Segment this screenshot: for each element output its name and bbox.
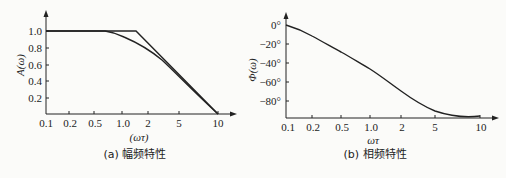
x-tick: 10: [213, 117, 225, 129]
x-tick: 5: [432, 121, 438, 133]
x-tick: 0.2: [63, 117, 77, 129]
amplitude-curve: [46, 31, 218, 114]
amplitude-chart: 1.0 0.8 0.6 0.4 0.2 0.1 0.2 0.5 1.0 2 5 …: [14, 10, 237, 161]
y-tick-0.6: 0.6: [28, 59, 42, 71]
x-tick: 0.5: [88, 117, 102, 129]
x-tick: 5: [176, 117, 182, 129]
caption: (b) 相频特性: [343, 147, 406, 161]
y-tick-0.4: 0.4: [28, 75, 42, 87]
y-axis-arrow-icon: [284, 12, 289, 19]
y-axis-label: A(ω): [14, 54, 27, 77]
y-axis-label: Φ(ω): [246, 58, 259, 82]
x-tick: 2: [145, 117, 151, 129]
x-tick: 1.0: [116, 117, 130, 129]
y-tick-minus80: −80°: [259, 95, 281, 107]
x-tick: 10: [476, 121, 488, 133]
x-tick: 0.1: [39, 117, 53, 129]
y-axis-arrow-icon: [44, 10, 49, 17]
x-tick: 0.5: [335, 121, 349, 133]
x-tick: 1.0: [364, 121, 378, 133]
y-tick-0.2: 0.2: [28, 92, 42, 104]
asymptote-line: [46, 31, 218, 114]
y-tick-minus20: −20°: [259, 38, 281, 50]
phase-chart: 0° −20° −40° −60° −80° 0.1 0.2 0.5 1.0 2…: [246, 12, 499, 161]
phase-curve: [286, 25, 480, 117]
caption: (a) 幅频特性: [104, 147, 167, 161]
y-tick-0.8: 0.8: [28, 42, 42, 54]
y-tick-0: 0°: [271, 19, 281, 31]
x-axis-arrow-icon: [230, 112, 237, 117]
y-tick-1.0: 1.0: [28, 25, 42, 37]
x-axis-arrow-icon: [492, 116, 499, 121]
figure: 1.0 0.8 0.6 0.4 0.2 0.1 0.2 0.5 1.0 2 5 …: [0, 0, 506, 178]
x-tick: 0.2: [306, 121, 320, 133]
y-tick-minus40: −40°: [259, 57, 281, 69]
x-axis-label: ωτ: [367, 134, 380, 146]
x-tick: 2: [399, 121, 405, 133]
x-tick: 0.1: [281, 121, 295, 133]
y-tick-minus60: −60°: [259, 76, 281, 88]
x-axis-label: (ωτ): [129, 131, 148, 144]
